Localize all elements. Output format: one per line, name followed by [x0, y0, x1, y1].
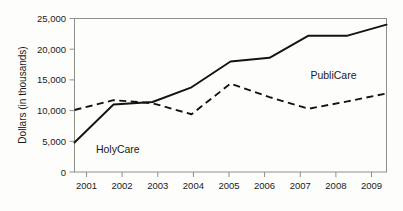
chart-canvas: 25,000 20,000 15,000 10,000 5,000 0 Doll…	[0, 0, 403, 211]
y-axis-title: Dollars (in thousands)	[17, 46, 28, 143]
x-axis-label-2007: 2007	[290, 180, 311, 191]
x-axis-label-2002: 2002	[112, 180, 133, 191]
x-axis-label-2009: 2009	[361, 180, 382, 191]
y-axis-label-10000: 10,000	[37, 105, 66, 116]
x-axis-label-2003: 2003	[147, 180, 168, 191]
x-axis-label-2008: 2008	[325, 180, 346, 191]
y-axis-label-5000: 5,000	[42, 136, 66, 147]
x-axis-label-2004: 2004	[183, 180, 204, 191]
series-line-publicare	[75, 84, 387, 115]
y-axis-label-25000: 25,000	[37, 13, 66, 24]
series-annotation-publicare: PubliCare	[310, 69, 356, 81]
y-axis-label-15000: 15,000	[37, 74, 66, 85]
line-chart-figure: 25,000 20,000 15,000 10,000 5,000 0 Doll…	[0, 0, 403, 211]
y-axis-ticks	[70, 19, 75, 173]
y-axis-labels: 25,000 20,000 15,000 10,000 5,000 0	[37, 13, 66, 178]
series-line-holycare	[75, 25, 387, 143]
x-axis-label-2005: 2005	[218, 180, 239, 191]
y-axis-label-0: 0	[61, 167, 66, 178]
x-axis-ticks	[87, 172, 372, 177]
series-annotation-holycare: HolyCare	[96, 143, 140, 155]
x-axis-label-2006: 2006	[254, 180, 275, 191]
y-axis-label-20000: 20,000	[37, 44, 66, 55]
x-axis-label-2001: 2001	[76, 180, 97, 191]
x-axis-labels: 2001 2002 2003 2004 2005 2006 2007 2008 …	[76, 180, 382, 191]
